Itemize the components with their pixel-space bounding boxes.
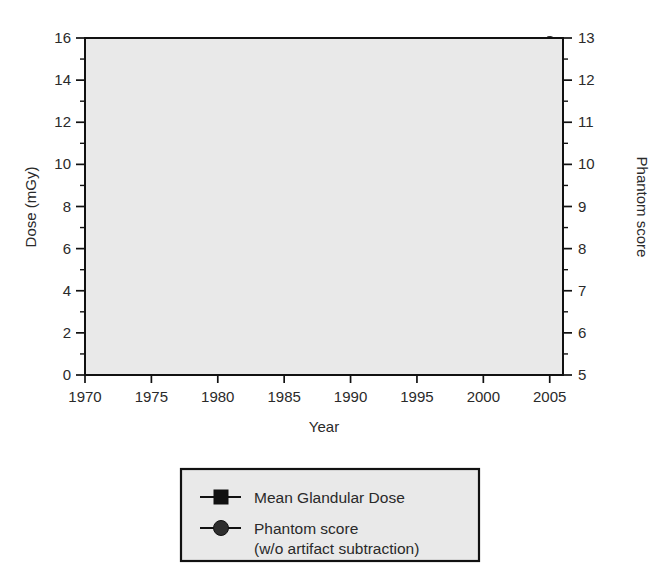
legend-sublabel-phantom: (w/o artifact subtraction) (254, 540, 419, 557)
legend-label-phantom: Phantom score (254, 520, 358, 537)
x-tick-label: 1985 (267, 388, 300, 405)
y-tick-label: 4 (63, 282, 71, 299)
x-tick-label: 1980 (201, 388, 234, 405)
y-tick-label: 2 (63, 324, 71, 341)
y2-tick-label: 10 (578, 155, 595, 172)
x-tick-label: 1995 (400, 388, 433, 405)
y2-tick-label: 12 (578, 71, 595, 88)
x-tick-label: 1970 (68, 388, 101, 405)
y2-tick-label: 7 (578, 282, 586, 299)
y-tick-label: 0 (63, 366, 71, 383)
y-tick-label: 14 (54, 71, 71, 88)
x-tick-label: 1990 (334, 388, 367, 405)
y-axis-left-ticks: 0246810121416 (54, 29, 85, 383)
y2-tick-label: 9 (578, 198, 586, 215)
y2-tick-label: 13 (578, 29, 595, 46)
legend-label-dose: Mean Glandular Dose (254, 489, 405, 506)
x-tick-label: 2005 (533, 388, 566, 405)
y-axis-right-title: Phantom score (634, 157, 651, 258)
chart-legend: Mean Glandular Dose Phantom score (w/o a… (181, 469, 479, 561)
y-tick-label: 6 (63, 240, 71, 257)
y-tick-label: 8 (63, 198, 71, 215)
y-tick-label: 10 (54, 155, 71, 172)
x-tick-label: 1975 (135, 388, 168, 405)
plot-frame-outline (85, 38, 563, 375)
dose-and-phantom-score-chart: 19701975198019851990199520002005 0246810… (0, 0, 660, 585)
y2-tick-label: 6 (578, 324, 586, 341)
legend-circle-marker-icon (214, 521, 229, 536)
y-axis-right-ticks: 5678910111213 (563, 29, 595, 383)
figure-container: 19701975198019851990199520002005 0246810… (0, 0, 660, 585)
y-tick-label: 12 (54, 113, 71, 130)
x-axis-ticks: 19701975198019851990199520002005 (68, 375, 566, 405)
y-axis-left-title: Dose (mGy) (22, 167, 39, 248)
y2-tick-label: 8 (578, 240, 586, 257)
y2-tick-label: 5 (578, 366, 586, 383)
x-tick-label: 2000 (467, 388, 500, 405)
legend-square-marker-icon (214, 490, 228, 504)
y2-tick-label: 11 (578, 113, 594, 130)
y-tick-label: 16 (54, 29, 71, 46)
x-axis-title: Year (309, 418, 339, 435)
